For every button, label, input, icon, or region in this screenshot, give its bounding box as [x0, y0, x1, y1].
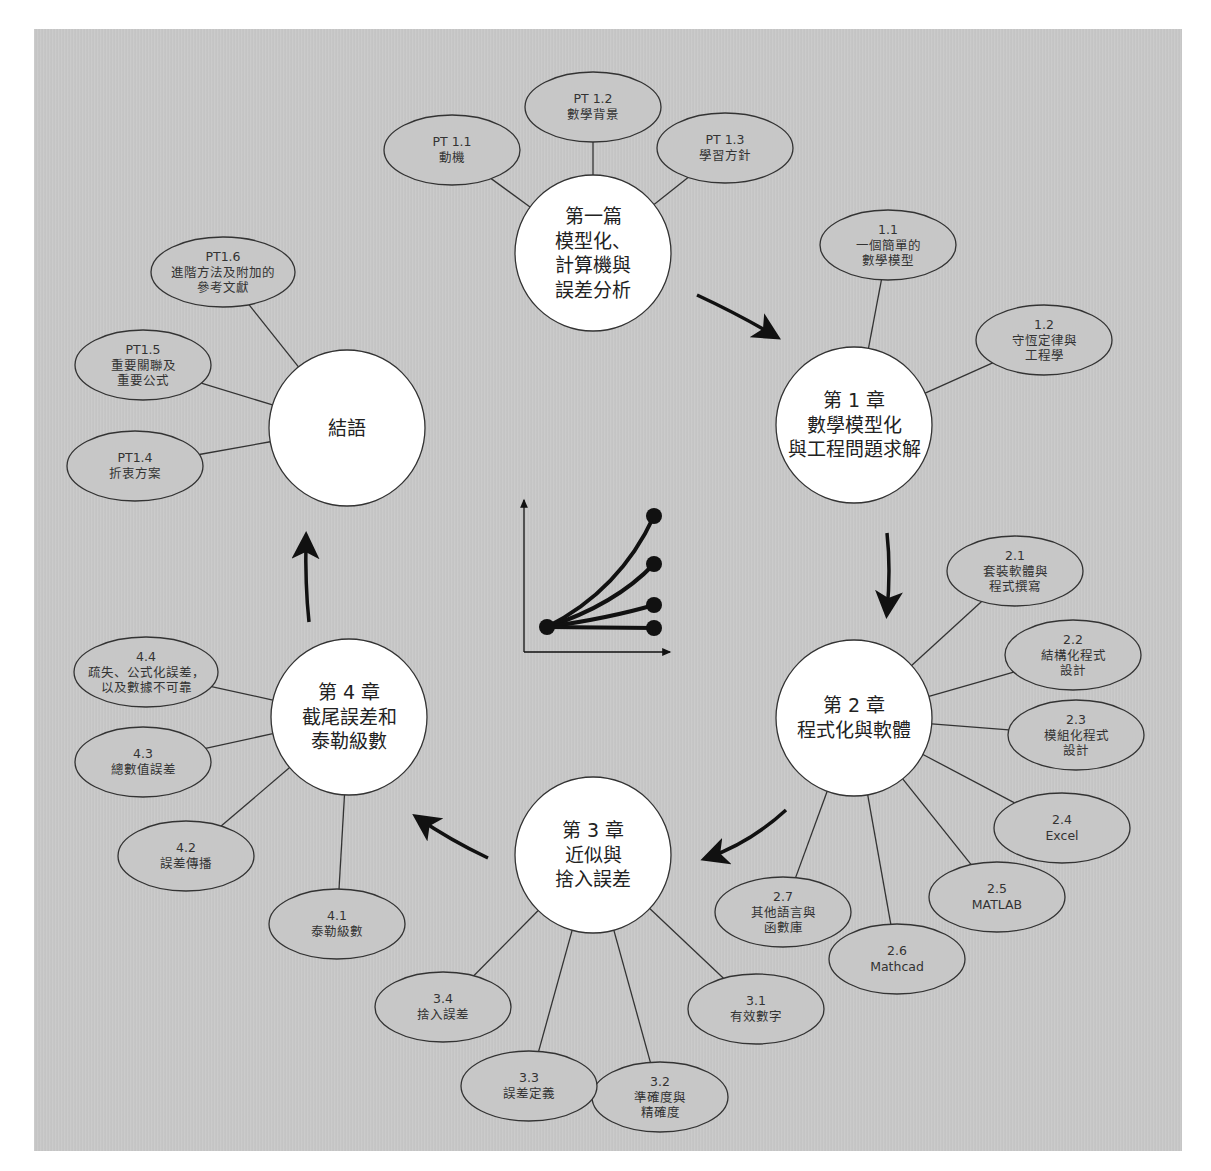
subtopic-title-line: 捨入誤差: [417, 1007, 469, 1023]
connector-line: [201, 383, 272, 405]
hub-title-line: 計算機與: [555, 253, 631, 278]
hub-title-line: 泰勒級數: [302, 729, 397, 754]
subtopic-label: 3.3誤差定義: [503, 1070, 555, 1101]
hub-label-ch3: 第 3 章近似與捨入誤差: [555, 818, 631, 892]
hub-title-line: 第 4 章: [302, 680, 397, 705]
subtopic-title-line: 結構化程式: [1041, 647, 1106, 663]
connector-line: [221, 768, 290, 826]
subtopic-number: PT1.6: [171, 249, 275, 265]
hub-title-line: 第一篇: [555, 204, 631, 229]
subtopic-label: 2.7其他語言與函數庫: [751, 889, 816, 936]
subtopic-number: 1.2: [1012, 317, 1077, 333]
hub-title-line: 程式化與軟體: [797, 718, 911, 743]
hub-title-line: 結語: [328, 416, 366, 441]
hub-title-line: 截尾誤差和: [302, 705, 397, 730]
hub-title-line: 數學模型化: [788, 413, 921, 438]
connector-line: [474, 911, 538, 976]
subtopic-title-line: 數學背景: [567, 107, 619, 123]
connector-line: [249, 305, 299, 367]
hub-title-line: 模型化、: [555, 228, 631, 253]
subtopic-title-line: 進階方法及附加的: [171, 264, 275, 280]
subtopic-label: 2.1套裝軟體與程式撰寫: [983, 548, 1048, 595]
subtopic-label: 3.1有效數字: [730, 993, 782, 1024]
subtopic-title-line: 折衷方案: [109, 466, 161, 482]
convergence-curves-icon: [524, 500, 670, 652]
subtopic-title-line: 套裝軟體與: [983, 563, 1048, 579]
subtopic-title-line: 精確度: [634, 1105, 686, 1121]
hub-title-line: 與工程問題求解: [788, 437, 921, 462]
connector-line: [491, 179, 530, 207]
subtopic-label: 2.3模組化程式設計: [1044, 712, 1109, 759]
subtopic-title-line: Mathcad: [870, 959, 924, 975]
subtopic-number: 4.3: [111, 746, 176, 762]
subtopic-number: PT 1.3: [699, 132, 751, 148]
subtopic-number: 2.3: [1044, 712, 1109, 728]
subtopic-number: 3.1: [730, 993, 782, 1009]
subtopic-title-line: 其他語言與: [751, 904, 816, 920]
subtopic-label: 2.6Mathcad: [870, 943, 924, 974]
connector-line: [650, 909, 724, 979]
subtopic-label: 2.2結構化程式設計: [1041, 632, 1106, 679]
subtopic-label: 3.2準確度與精確度: [634, 1074, 686, 1121]
subtopic-number: 2.2: [1041, 632, 1106, 648]
hub-label-ch4: 第 4 章截尾誤差和泰勒級數: [302, 680, 397, 754]
subtopic-title-line: 準確度與: [634, 1089, 686, 1105]
connector-line: [929, 672, 1014, 696]
subtopic-label: 1.2守恆定律與工程學: [1012, 317, 1077, 364]
subtopic-label: 4.1泰勒級數: [311, 908, 363, 939]
connector-line: [212, 687, 273, 701]
subtopic-number: 1.1: [856, 222, 921, 238]
subtopic-label: 2.5MATLAB: [972, 881, 1022, 912]
arrow-part1-to-ch1: [697, 295, 775, 336]
subtopic-title-line: 泰勒級數: [311, 924, 363, 940]
subtopic-title-line: 學習方針: [699, 148, 751, 164]
hub-title-line: 誤差分析: [555, 278, 631, 303]
connector-line: [796, 791, 828, 877]
connector-line: [199, 442, 270, 455]
arrow-ch4-to-epilogue: [306, 538, 309, 622]
hub-title-line: 近似與: [555, 843, 631, 868]
subtopic-number: 2.7: [751, 889, 816, 905]
connector-line: [868, 280, 881, 349]
connector-line: [925, 363, 992, 393]
hub-title-line: 第 2 章: [797, 693, 911, 718]
connector-line: [614, 930, 651, 1062]
subtopic-number: 3.4: [417, 991, 469, 1007]
subtopic-title-line: 數學模型: [856, 253, 921, 269]
subtopic-label: PT1.6進階方法及附加的參考文獻: [171, 249, 275, 296]
subtopic-title-line: 設計: [1044, 743, 1109, 759]
hub-title-line: 第 1 章: [788, 388, 921, 413]
subtopic-number: PT1.5: [111, 342, 176, 358]
hub-label-ch2: 第 2 章程式化與軟體: [797, 693, 911, 742]
subtopic-label: 4.2誤差傳播: [160, 840, 212, 871]
subtopic-title-line: 模組化程式: [1044, 727, 1109, 743]
hub-label-epilogue: 結語: [328, 416, 366, 441]
subtopic-number: 3.2: [634, 1074, 686, 1090]
subtopic-title-line: 參考文獻: [171, 280, 275, 296]
connector-line: [912, 601, 982, 665]
subtopic-label: 3.4捨入誤差: [417, 991, 469, 1022]
subtopic-number: 4.2: [160, 840, 212, 856]
hub-title-line: 第 3 章: [555, 818, 631, 843]
subtopic-title-line: 疏失、公式化誤差，: [88, 664, 205, 680]
subtopic-number: 4.1: [311, 908, 363, 924]
subtopic-label: PT 1.1動機: [432, 134, 471, 165]
subtopic-label: PT 1.2數學背景: [567, 91, 619, 122]
arrow-ch2-to-ch3: [707, 810, 786, 858]
subtopic-number: 2.5: [972, 881, 1022, 897]
subtopic-title-line: 重要公式: [111, 373, 176, 389]
connector-line: [932, 724, 1009, 730]
subtopic-title-line: 以及數據不可靠: [88, 680, 205, 696]
subtopic-title-line: 一個簡單的: [856, 237, 921, 253]
subtopic-title-line: 動機: [432, 150, 471, 166]
subtopic-label: PT 1.3學習方針: [699, 132, 751, 163]
subtopic-number: 3.3: [503, 1070, 555, 1086]
connector-line: [339, 795, 344, 889]
subtopic-title-line: 誤差定義: [503, 1086, 555, 1102]
subtopic-number: 2.6: [870, 943, 924, 959]
subtopic-number: PT1.4: [109, 450, 161, 466]
subtopic-title-line: 重要關聯及: [111, 357, 176, 373]
subtopic-title-line: 函數庫: [751, 920, 816, 936]
subtopic-title-line: 守恆定律與: [1012, 332, 1077, 348]
subtopic-label: PT1.5重要關聯及重要公式: [111, 342, 176, 389]
